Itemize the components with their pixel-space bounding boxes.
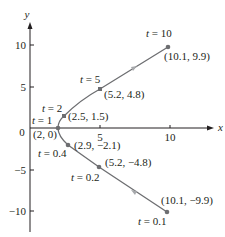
y-tick-label-neg5: −5 <box>14 164 26 176</box>
point-t-10 <box>166 45 171 50</box>
y-tick-label-neg10: −10 <box>9 205 27 217</box>
coord-label-0.2: (5.2, −4.8) <box>105 156 152 169</box>
coord-label-2: (2.5, 1.5) <box>68 110 109 123</box>
coord-label-5: (5.2, 4.8) <box>104 88 145 101</box>
coord-label-0.4: (2.9, −2.1) <box>74 139 121 152</box>
x-tick-label-10: 10 <box>165 131 177 143</box>
t-label-10: t = 10 <box>146 27 172 39</box>
y-axis-arrow-icon <box>28 22 33 29</box>
point-t-5 <box>98 87 102 91</box>
y-tick-label-5: 5 <box>21 81 27 93</box>
t-label-2: t = 2 <box>42 102 62 114</box>
point-t-2 <box>62 114 66 118</box>
origin-label: 0 <box>19 126 25 138</box>
y-axis-label: y <box>24 8 30 20</box>
t-label-0.4: t = 0.4 <box>38 147 67 159</box>
direction-arrow-icon <box>131 66 137 71</box>
parametric-curve-chart: 5 10 10 5 −5 −10 0 y x t = 10 (10.1, 9.9… <box>0 0 225 237</box>
point-t-0.1 <box>165 210 170 215</box>
coord-label-0.1: (10.1, −9.9) <box>161 194 213 207</box>
coord-label-10: (10.1, 9.9) <box>164 50 210 63</box>
parametric-curve <box>58 47 168 212</box>
direction-arrow-icon <box>131 190 137 195</box>
x-axis-arrow-icon <box>207 126 214 131</box>
y-tick-label-10: 10 <box>15 39 27 51</box>
t-label-5: t = 5 <box>80 73 101 85</box>
point-t-0.2 <box>97 165 102 170</box>
t-label-0.2: t = 0.2 <box>71 171 100 183</box>
coord-label-1: (2, 0) <box>33 128 57 141</box>
t-label-1: t = 1 <box>32 114 52 126</box>
x-axis-label: x <box>217 121 223 133</box>
t-label-0.1: t = 0.1 <box>138 215 167 227</box>
